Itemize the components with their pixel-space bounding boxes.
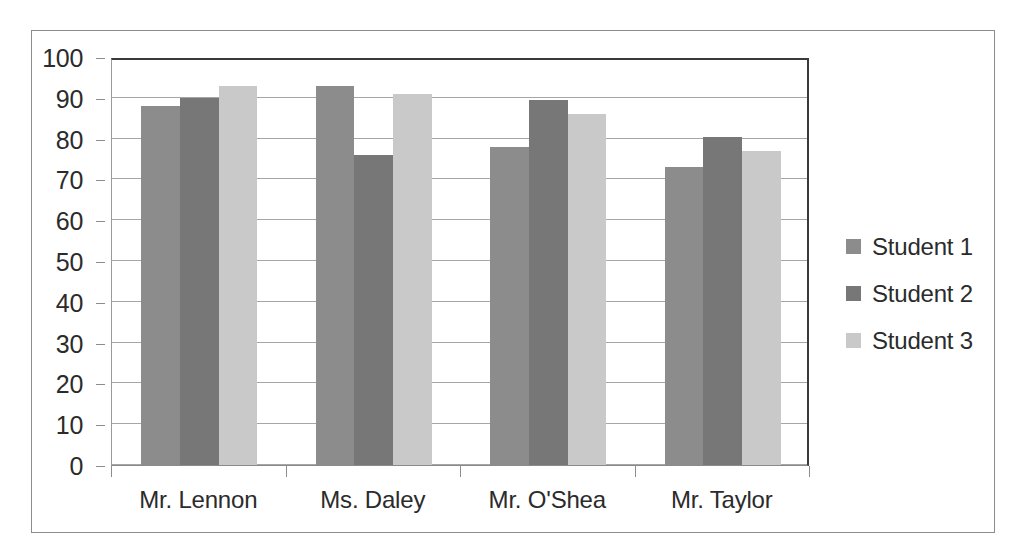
bar[interactable] bbox=[568, 114, 607, 465]
bar[interactable] bbox=[180, 98, 219, 465]
chart-frame: 1009080706050403020100 Mr. LennonMs. Dal… bbox=[31, 30, 995, 533]
bar-group-3 bbox=[490, 60, 606, 465]
y-tick-label-10: 10 bbox=[56, 411, 83, 440]
chart-legend: Student 1Student 2Student 3 bbox=[846, 223, 973, 364]
bar[interactable] bbox=[141, 106, 180, 465]
y-tick-mark-100 bbox=[96, 58, 105, 59]
bar[interactable] bbox=[742, 151, 781, 465]
legend-label: Student 1 bbox=[872, 233, 973, 261]
y-tick-label-100: 100 bbox=[42, 44, 83, 73]
legend-swatch-icon bbox=[846, 333, 861, 348]
y-tick-mark-80 bbox=[96, 140, 105, 141]
x-tick-mark bbox=[111, 466, 112, 477]
legend-label: Student 2 bbox=[872, 280, 973, 308]
legend-label: Student 3 bbox=[872, 327, 973, 355]
y-tick-mark-60 bbox=[96, 221, 105, 222]
x-tick-mark bbox=[809, 466, 810, 477]
legend-item-2[interactable]: Student 2 bbox=[846, 270, 973, 317]
x-axis-label-4: Mr. Taylor bbox=[671, 486, 773, 514]
x-tick-mark bbox=[460, 466, 461, 477]
legend-swatch-icon bbox=[846, 286, 861, 301]
bar[interactable] bbox=[529, 100, 568, 465]
y-tick-mark-70 bbox=[96, 180, 105, 181]
legend-item-3[interactable]: Student 3 bbox=[846, 317, 973, 364]
bar[interactable] bbox=[219, 86, 258, 465]
y-tick-mark-0 bbox=[96, 466, 105, 467]
legend-swatch-icon bbox=[846, 239, 861, 254]
y-tick-mark-40 bbox=[96, 303, 105, 304]
y-tick-mark-90 bbox=[96, 99, 105, 100]
bar[interactable] bbox=[703, 137, 742, 465]
y-tick-label-90: 90 bbox=[56, 84, 83, 113]
x-tick-mark bbox=[635, 466, 636, 477]
y-tick-label-30: 30 bbox=[56, 329, 83, 358]
x-axis-label-1: Mr. Lennon bbox=[139, 486, 257, 514]
legend-item-1[interactable]: Student 1 bbox=[846, 223, 973, 270]
y-tick-mark-50 bbox=[96, 262, 105, 263]
y-tick-label-70: 70 bbox=[56, 166, 83, 195]
bar[interactable] bbox=[490, 147, 529, 465]
bar-group-4 bbox=[665, 60, 781, 465]
y-axis: 1009080706050403020100 bbox=[32, 58, 105, 466]
y-tick-mark-20 bbox=[96, 384, 105, 385]
x-axis-label-3: Mr. O'Shea bbox=[489, 486, 606, 514]
bar[interactable] bbox=[393, 94, 432, 465]
y-tick-label-60: 60 bbox=[56, 207, 83, 236]
y-tick-label-0: 0 bbox=[69, 452, 83, 481]
bar[interactable] bbox=[354, 155, 393, 465]
y-tick-label-20: 20 bbox=[56, 370, 83, 399]
y-tick-label-50: 50 bbox=[56, 248, 83, 277]
y-tick-label-80: 80 bbox=[56, 125, 83, 154]
y-tick-label-40: 40 bbox=[56, 288, 83, 317]
y-tick-mark-30 bbox=[96, 344, 105, 345]
y-tick-mark-10 bbox=[96, 425, 105, 426]
plot-area bbox=[111, 58, 809, 466]
bar-group-1 bbox=[141, 60, 257, 465]
bar[interactable] bbox=[316, 86, 355, 465]
bar-group-2 bbox=[316, 60, 432, 465]
x-tick-mark bbox=[286, 466, 287, 477]
bar[interactable] bbox=[665, 167, 704, 465]
x-axis-label-2: Ms. Daley bbox=[320, 486, 425, 514]
